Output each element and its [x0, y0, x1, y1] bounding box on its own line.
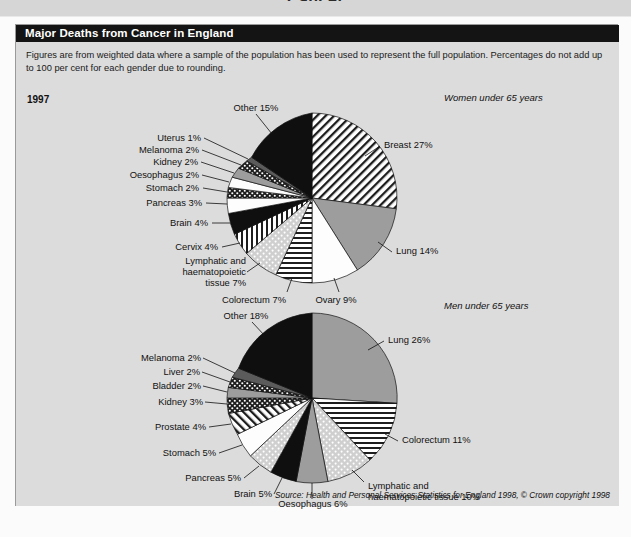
label-women-ovary: Ovary 9%	[306, 294, 366, 305]
running-head-rule	[0, 16, 631, 17]
label-men-brain: Brain 5%	[204, 488, 272, 499]
slice-women-breast	[312, 113, 397, 209]
running-head-band: Cancer	[0, 0, 631, 16]
source-note: Source: Health and Personal Services Sta…	[275, 490, 610, 500]
label-men-pancreas: Pancreas 5%	[159, 472, 241, 483]
label-men-stomach: Stomach 5%	[134, 447, 216, 458]
label-women-other: Other 15%	[206, 102, 306, 113]
panel-title: Major Deaths from Cancer in England	[16, 25, 619, 42]
label-men-colorectum: Colorectum 11%	[402, 434, 471, 445]
pie-charts-svg	[16, 42, 619, 506]
label-women-stomach: Stomach 2%	[116, 182, 199, 193]
label-women-breast: Breast 27%	[384, 139, 432, 150]
label-women-kidney: Kidney 2%	[116, 156, 198, 167]
label-women-lymphatic: Lymphatic and haematopoietic tissue 7%	[141, 255, 246, 288]
charts-area: Breast 27% Lung 14% Ovary 9% Colorectum …	[16, 42, 619, 506]
label-men-prostate: Prostate 4%	[124, 421, 206, 432]
label-women-cervix: Cervix 4%	[136, 241, 218, 252]
label-men-other: Other 18%	[196, 310, 296, 321]
label-women-lung: Lung 14%	[396, 245, 438, 256]
panel-body: Figures are from weighted data where a s…	[16, 42, 619, 506]
running-head-text: Cancer	[0, 0, 631, 1]
label-men-melanoma: Melanoma 2%	[108, 352, 201, 363]
label-men-kidney: Kidney 3%	[126, 396, 203, 407]
label-men-bladder: Bladder 2%	[118, 380, 201, 391]
label-women-pancreas: Pancreas 3%	[116, 197, 202, 208]
label-men-lung: Lung 26%	[388, 334, 430, 345]
label-women-uterus: Uterus 1%	[116, 132, 201, 143]
label-women-colorectum: Colorectum 7%	[204, 294, 286, 305]
label-women-oesophagus: Oesophagus 2%	[108, 169, 199, 180]
label-men-liver: Liver 2%	[126, 366, 200, 377]
label-women-melanoma: Melanoma 2%	[108, 144, 199, 155]
figure-panel: Major Deaths from Cancer in England Figu…	[15, 24, 618, 506]
label-women-brain: Brain 4%	[136, 217, 208, 228]
slice-men-lung	[312, 313, 397, 403]
